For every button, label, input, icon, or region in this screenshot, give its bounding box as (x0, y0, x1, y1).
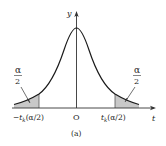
left-critical-label: −tk(α/2) (13, 113, 44, 123)
right-tail-numerator: α (134, 65, 140, 75)
figure-caption: (a) (71, 129, 81, 138)
left-tail-denominator: 2 (15, 77, 20, 86)
x-axis-label: t (152, 114, 156, 123)
t-distribution-diagram: α 2 α 2 y t O −tk(α/2) tk(α/2) (a) (0, 0, 166, 146)
right-critical-label: tk(α/2) (101, 113, 126, 123)
y-axis-label: y (66, 9, 72, 18)
right-tail-denominator: 2 (134, 77, 139, 86)
left-tail-numerator: α (15, 65, 21, 75)
origin-label: O (73, 113, 80, 122)
